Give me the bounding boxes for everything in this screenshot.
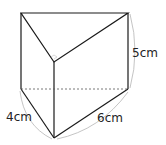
- height-label: 5cm: [132, 46, 158, 60]
- triangular-prism-diagram: 5cm 4cm 6cm: [0, 0, 166, 145]
- long-edge-label: 6cm: [97, 111, 123, 125]
- short-edge-label: 4cm: [6, 110, 32, 124]
- top-face: [21, 13, 128, 62]
